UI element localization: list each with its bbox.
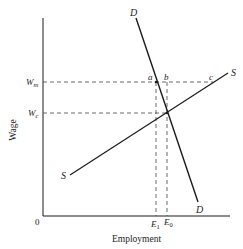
wc-label: Wc [28, 108, 39, 119]
y-axis-title: Wage [8, 119, 18, 140]
origin-label: 0 [35, 217, 40, 227]
equilibrium-marker [166, 112, 169, 115]
x-axis-title: Employment [112, 234, 161, 244]
e1-label: E1 [150, 219, 160, 230]
labor-market-diagram: D D S S a b c Wm Wc E1 E0 0 Employment W… [0, 0, 243, 249]
e0-label: E0 [163, 217, 173, 228]
supply-label-left: S [61, 170, 66, 181]
supply-curve [70, 73, 228, 175]
supply-label-right: S [231, 67, 236, 78]
wm-label: Wm [26, 77, 39, 88]
point-b-label: b [164, 72, 169, 82]
demand-label-top: D [129, 7, 138, 18]
point-a-label: a [148, 72, 153, 82]
point-a-marker [155, 81, 158, 84]
point-c-label: c [209, 72, 213, 82]
demand-label-bottom: D [195, 204, 204, 215]
